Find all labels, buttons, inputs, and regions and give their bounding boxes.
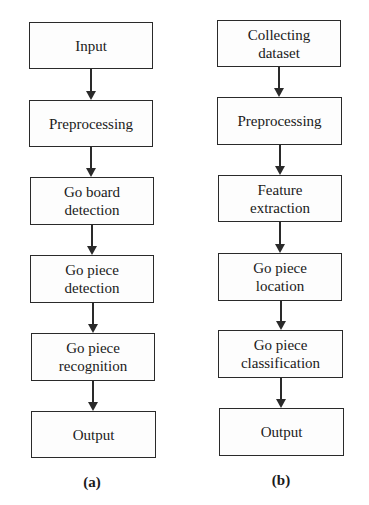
- step-feature-extraction: Feature extraction: [218, 175, 342, 222]
- step-output: Output: [31, 411, 156, 458]
- step-output: Output: [219, 408, 344, 456]
- caption-a: (a): [83, 474, 101, 491]
- caption-b: (b): [272, 472, 290, 489]
- step-input: Input: [29, 22, 153, 69]
- step-collecting-dataset: Collecting dataset: [217, 20, 341, 67]
- step-go-piece-classification: Go piece classification: [218, 330, 343, 378]
- step-preprocessing: Preprocessing: [217, 97, 342, 145]
- step-go-board-detection: Go board detection: [30, 177, 154, 225]
- step-go-piece-location: Go piece location: [218, 253, 342, 301]
- step-go-piece-detection: Go piece detection: [30, 255, 154, 303]
- step-preprocessing: Preprocessing: [29, 100, 153, 147]
- step-go-piece-recognition: Go piece recognition: [31, 333, 155, 381]
